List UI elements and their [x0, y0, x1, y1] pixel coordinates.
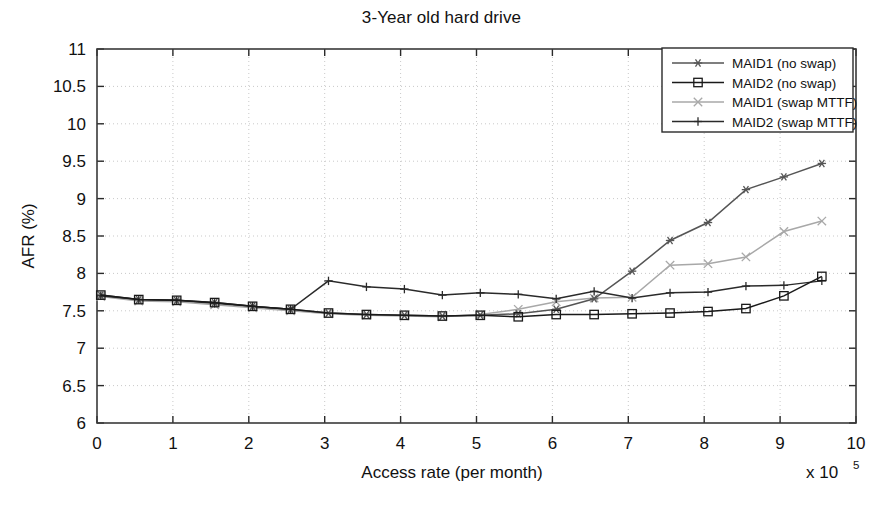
data-point-marker-plus: [362, 283, 370, 291]
legend[interactable]: MAID1 (no swap)MAID2 (no swap)MAID1 (swa…: [662, 48, 857, 132]
x-axis-tick-label: 4: [396, 434, 405, 453]
data-point-marker-plus: [704, 288, 712, 296]
y-axis-tick-label: 8.5: [62, 227, 86, 246]
data-point-marker-cross-x: [818, 217, 826, 225]
x-axis-multiplier: x 10: [806, 463, 838, 482]
data-point-marker-plus: [780, 281, 788, 289]
x-axis-tick-label: 5: [472, 434, 481, 453]
x-axis-tick-label: 1: [168, 434, 177, 453]
data-point-marker-plus: [666, 289, 674, 297]
x-axis-multiplier-exponent: 5: [853, 459, 859, 471]
legend-item-label: MAID2 (no swap): [732, 76, 836, 91]
data-point-marker-asterisk: [780, 173, 788, 180]
y-axis-tick-label: 10: [67, 115, 86, 134]
data-point-marker-plus: [514, 290, 522, 298]
legend-item-label: MAID1 (swap MTTF): [732, 95, 857, 110]
y-axis-tick-label: 9: [77, 190, 86, 209]
legend-item-label: MAID2 (swap MTTF): [732, 115, 857, 130]
series-line: [101, 163, 822, 316]
x-axis-tick-label: 10: [847, 434, 866, 453]
x-axis-tick-label: 2: [244, 434, 253, 453]
y-axis-tick-label: 6: [77, 414, 86, 433]
data-point-marker-asterisk: [552, 306, 560, 313]
y-axis-tick-label: 11: [68, 40, 86, 59]
x-axis-tick-label: 7: [624, 434, 633, 453]
data-point-marker-plus: [476, 289, 484, 297]
data-point-marker-cross-x: [780, 227, 788, 235]
series-3: [97, 277, 826, 314]
y-axis-tick-label: 6.5: [62, 377, 86, 396]
series-1: [97, 272, 826, 321]
x-axis-tick-label: 8: [699, 434, 708, 453]
y-axis-tick-label: 7.5: [62, 302, 86, 321]
y-axis-tick-label: 9.5: [62, 152, 86, 171]
y-axis-tick-label: 10.5: [53, 77, 86, 96]
data-point-marker-plus: [400, 285, 408, 293]
data-point-marker-plus: [742, 282, 750, 290]
series-0: [97, 160, 826, 320]
x-axis-tick-label: 3: [320, 434, 329, 453]
data-series-layer: [97, 160, 826, 321]
data-point-marker-plus: [438, 291, 446, 299]
x-axis-tick-label: 0: [92, 434, 101, 453]
chart-canvas: 01234567891066.577.588.599.51010.511 AFR…: [0, 0, 883, 505]
figure-container: 3-Year old hard drive 01234567891066.577…: [0, 0, 883, 505]
y-axis-tick-label: 8: [77, 264, 86, 283]
legend-item-label: MAID1 (no swap): [732, 56, 836, 71]
x-axis-tick-label: 9: [775, 434, 784, 453]
y-axis-title: AFR (%): [19, 203, 38, 268]
series-2: [97, 217, 826, 321]
x-axis-tick-label: 6: [548, 434, 557, 453]
y-axis-tick-label: 7: [77, 339, 86, 358]
x-axis-title: Access rate (per month): [361, 463, 542, 482]
